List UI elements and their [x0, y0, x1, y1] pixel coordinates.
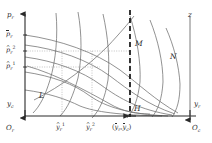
x-tick-yhat2-sub: r: [90, 127, 92, 132]
pair-close-paren: ): [129, 123, 132, 131]
y-tick-label-pbar: pr: [6, 31, 12, 38]
y-tick-phat2-sup: 2: [12, 45, 15, 50]
origin-right-base: O: [192, 124, 198, 132]
hat-accent: ^: [86, 122, 89, 127]
origin-right-sub: c: [198, 128, 201, 133]
right-axis-label: yr: [194, 101, 200, 108]
overbar-accent: [115, 123, 118, 124]
x-tick-label-yhat2: ^yr2: [86, 124, 95, 131]
contract-curve: [27, 16, 150, 114]
plot-canvas: [0, 0, 212, 143]
overbar-accent: [123, 123, 126, 124]
left-axis-label: pr: [7, 12, 14, 19]
left-lower-axis-label: yc: [7, 101, 14, 108]
top-right-axis-label: z: [188, 12, 192, 19]
x-tick-label-yhat1: ^yr1: [56, 124, 65, 131]
y-tick-label-phat1: ^pr1: [6, 63, 15, 70]
y-tick-label-phat2: ^pr2: [6, 47, 15, 54]
hat-accent: ^: [56, 122, 59, 127]
left-axis-label-sub: r: [11, 15, 13, 20]
curve-label-M: M: [135, 40, 143, 48]
origin-right-label: Oc: [192, 125, 200, 132]
hat-accent: ^: [6, 61, 9, 66]
curve-label-L: L: [39, 92, 44, 100]
pair-second-sub: c: [126, 127, 129, 132]
overbar-accent: [6, 30, 9, 31]
economics-diagram: pr pr ^pr2 ^pr1 yc Or Oc yr z ^yr1 ^yr2 …: [0, 0, 212, 143]
curve-label-H: H: [134, 105, 141, 113]
origin-left-label: Or: [6, 125, 14, 132]
origin-left-base: O: [6, 124, 12, 132]
x-tick-yhat1-sup: 1: [62, 122, 65, 127]
hat-accent: ^: [6, 45, 9, 50]
curve-label-N: N: [170, 53, 177, 61]
x-tick-yhat1-sub: r: [60, 127, 62, 132]
origin-left-sub: r: [12, 128, 14, 133]
left-lower-label-sub: c: [11, 104, 14, 109]
x-tick-yhat2-sup: 2: [92, 122, 95, 127]
right-axis-label-sub: r: [198, 104, 200, 109]
x-tick-label-pair: (yr,yc): [112, 124, 131, 131]
y-tick-phat1-sup: 1: [12, 61, 15, 66]
